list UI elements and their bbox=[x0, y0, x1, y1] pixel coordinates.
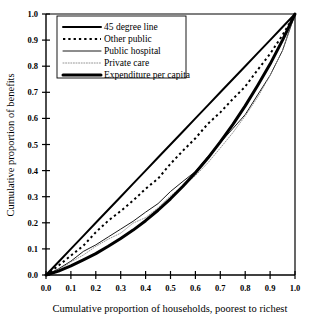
legend-label: Private care bbox=[104, 58, 149, 68]
y-tick-label: 0.4 bbox=[27, 166, 38, 176]
x-tick-label: 0.2 bbox=[90, 283, 101, 293]
y-tick-label: 0.7 bbox=[27, 87, 38, 97]
legend-label: 45 degree line bbox=[104, 22, 158, 32]
y-tick-label: 0.5 bbox=[27, 140, 38, 150]
legend-label: Public hospital bbox=[104, 46, 161, 56]
y-tick-label: 0.2 bbox=[27, 218, 38, 228]
y-tick-label: 1.0 bbox=[27, 9, 38, 19]
chart-figure: 0.00.10.20.30.40.50.60.70.80.91.0 0.00.1… bbox=[0, 0, 312, 325]
x-tick-label: 0.1 bbox=[66, 283, 77, 293]
y-axis-title: Cumulative proportion of benefits bbox=[5, 73, 16, 216]
legend-label: Other public bbox=[104, 34, 152, 44]
legend-label: Expenditure per capita bbox=[104, 70, 191, 80]
legend: 45 degree lineOther publicPublic hospita… bbox=[57, 16, 191, 80]
y-tick-label: 0.9 bbox=[27, 35, 38, 45]
y-tick-label: 0.1 bbox=[27, 244, 38, 254]
x-tick-label: 1.0 bbox=[290, 283, 301, 293]
y-tick-label: 0.0 bbox=[27, 270, 38, 280]
x-tick-label: 0.4 bbox=[140, 283, 151, 293]
x-tick-label: 0.8 bbox=[240, 283, 251, 293]
y-tick-label: 0.6 bbox=[27, 113, 38, 123]
x-tick-label: 0.5 bbox=[165, 283, 176, 293]
x-axis-title: Cumulative proportion of households, poo… bbox=[53, 303, 288, 314]
x-tick-label: 0.3 bbox=[115, 283, 126, 293]
y-tick-label: 0.3 bbox=[27, 192, 38, 202]
x-tick-label: 0.7 bbox=[215, 283, 226, 293]
y-tick-label: 0.8 bbox=[27, 61, 38, 71]
x-tick-label: 0.6 bbox=[190, 283, 201, 293]
x-tick-label: 0.9 bbox=[265, 283, 276, 293]
x-tick-label: 0.0 bbox=[41, 283, 52, 293]
lorenz-curve-chart: 0.00.10.20.30.40.50.60.70.80.91.0 0.00.1… bbox=[0, 0, 312, 325]
